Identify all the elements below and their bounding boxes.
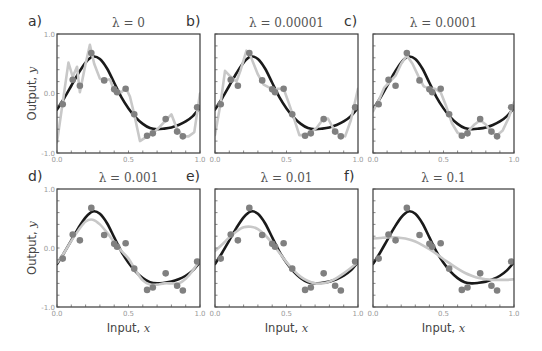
training-data-point	[477, 270, 484, 277]
panel-f: f)λ = 0.10.00.51.0Input, x	[344, 168, 520, 335]
training-data-point	[392, 237, 399, 244]
training-data-point	[429, 244, 436, 251]
training-data-point	[259, 232, 266, 239]
x-tick-label: 0.5	[438, 310, 449, 318]
panel-letter: a)	[28, 13, 42, 29]
plot-area	[57, 205, 200, 294]
training-data-point	[77, 82, 84, 89]
x-tick-label: 1.0	[508, 310, 519, 318]
panel-title: λ = 0.001	[99, 171, 159, 185]
y-tick-label: 0.0	[44, 245, 55, 253]
training-data-point	[174, 282, 181, 289]
fitted-model-curve	[215, 51, 358, 137]
x-tick-label: 0.5	[123, 156, 134, 164]
training-data-point	[437, 240, 444, 247]
training-data-point	[308, 284, 315, 291]
training-data-point	[332, 282, 339, 289]
training-data-point	[404, 205, 411, 212]
x-tick-label: 0.0	[209, 310, 220, 318]
x-tick-label: 0.0	[209, 156, 220, 164]
training-data-point	[464, 284, 471, 291]
plot-area	[57, 45, 200, 143]
training-data-point	[272, 244, 279, 251]
training-data-point	[235, 237, 242, 244]
training-data-point	[246, 205, 253, 212]
y-tick-label: 0.0	[44, 90, 55, 98]
plot-area	[215, 50, 358, 140]
x-axis-label: Input, x	[107, 321, 151, 335]
x-axis-label: Input, x	[265, 321, 309, 335]
x-tick-label: 1.0	[352, 156, 363, 164]
x-tick-label: 0.5	[281, 310, 292, 318]
training-data-point	[289, 265, 296, 272]
training-data-point	[77, 237, 84, 244]
training-data-point	[416, 232, 423, 239]
training-data-point	[59, 255, 66, 262]
panel-c: c)λ = 0.00010.00.51.0	[344, 13, 520, 164]
x-tick-label: 1.0	[352, 310, 363, 318]
training-data-point	[59, 101, 66, 108]
fitted-model-curve	[215, 227, 358, 284]
training-data-point	[332, 128, 339, 135]
panel-letter: b)	[186, 13, 200, 29]
training-data-point	[280, 85, 287, 92]
training-data-point	[488, 128, 495, 135]
fitted-model-curve	[57, 220, 200, 285]
panel-a: a)λ = 00.00.51.0-1.00.01.0Output, y	[25, 13, 206, 164]
training-data-point	[338, 133, 345, 140]
panel-letter: d)	[28, 168, 42, 184]
plot-area	[373, 205, 514, 294]
training-data-point	[320, 116, 327, 123]
training-data-point	[302, 287, 309, 294]
x-tick-label: 1.0	[194, 310, 205, 318]
training-data-point	[375, 255, 382, 262]
y-tick-label: 1.0	[44, 186, 55, 194]
panel-letter: e)	[186, 168, 200, 184]
y-tick-label: 1.0	[44, 31, 55, 39]
training-data-point	[162, 116, 169, 123]
training-data-point	[392, 82, 399, 89]
panel-title: λ = 0.1	[421, 171, 465, 185]
training-data-point	[150, 130, 157, 137]
true-function-curve	[215, 56, 358, 129]
training-data-point	[88, 205, 95, 212]
training-data-point	[131, 111, 138, 118]
panel-title: λ = 0	[112, 16, 145, 30]
x-tick-label: 0.5	[123, 310, 134, 318]
training-data-point	[122, 85, 129, 92]
panel-e: e)λ = 0.010.00.51.0Input, x	[186, 168, 364, 335]
training-data-point	[464, 130, 471, 137]
training-data-point	[429, 89, 436, 96]
training-data-point	[114, 244, 121, 251]
x-tick-label: 0.0	[367, 310, 378, 318]
training-data-point	[494, 133, 501, 140]
training-data-point	[494, 287, 501, 294]
training-data-point	[246, 50, 253, 57]
training-data-point	[272, 89, 279, 96]
training-data-point	[446, 111, 453, 118]
training-data-point	[385, 77, 392, 84]
axes-frame	[215, 189, 358, 307]
fitted-model-curve	[373, 55, 514, 135]
panel-letter: f)	[344, 168, 354, 184]
panel-b: b)λ = 0.000010.00.51.0	[186, 13, 364, 164]
training-data-point	[101, 232, 108, 239]
true-function-curve	[373, 211, 514, 283]
training-data-point	[338, 287, 345, 294]
x-axis-label: Input, x	[422, 321, 466, 335]
x-tick-label: 1.0	[194, 156, 205, 164]
x-tick-label: 0.0	[367, 156, 378, 164]
panel-title: λ = 0.01	[260, 171, 312, 185]
x-tick-label: 0.5	[438, 156, 449, 164]
training-data-point	[477, 116, 484, 123]
training-data-point	[144, 287, 151, 294]
panel-letter: c)	[344, 13, 357, 29]
training-data-point	[259, 77, 266, 84]
training-data-point	[101, 77, 108, 84]
training-data-point	[227, 77, 234, 84]
training-data-point	[162, 270, 169, 277]
training-data-point	[235, 82, 242, 89]
training-data-point	[459, 287, 466, 294]
training-data-point	[150, 284, 157, 291]
training-data-point	[488, 282, 495, 289]
